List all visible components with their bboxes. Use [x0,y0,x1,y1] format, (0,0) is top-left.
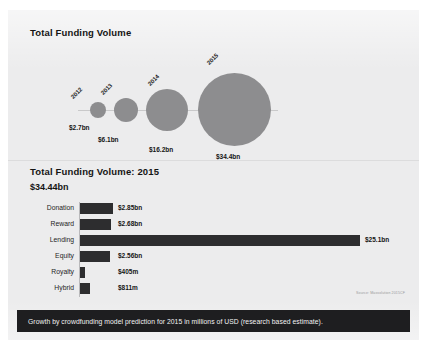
bubble-year-label-2012: 2012 [70,86,84,100]
bar-value-label: $405m [118,268,138,275]
bubble-year-label-2014: 2014 [147,73,161,87]
bar-chart-section: Total Funding Volume: 2015 $34.44bn Dona… [8,161,419,301]
bar-rect-equity [80,251,110,262]
bubble-year-label-2015: 2015 [206,52,220,66]
table-row: Lending $25.1bn [8,234,419,248]
bar-category-label: Equity [55,252,74,259]
bubble-2015 [198,73,271,146]
page-title: Total Funding Volume [30,27,131,38]
bubble-value-label-2012: $2.7bn [69,124,90,131]
table-row: Donation $2.85bn [8,202,419,216]
bar-category-label: Lending [50,236,74,243]
bubble-2012 [90,102,106,118]
table-row: Royalty $405m [8,266,419,280]
bar-category-label: Donation [47,204,74,211]
table-row: Equity $2.56bn [8,250,419,264]
bar-category-label: Hybrid [54,284,74,291]
bar-rect-royalty [80,267,85,278]
footer-caption-text: Growth by crowdfunding model prediction … [28,318,323,325]
subsection-title: Total Funding Volume: 2015 [30,166,159,177]
subsection-total: $34.44bn [30,182,69,192]
bubble-2014 [146,89,188,131]
footer-caption-bar: Growth by crowdfunding model prediction … [17,310,410,332]
infographic-screenshot: Total Funding Volume 2012 $2.7bn 2013 $6… [0,0,427,349]
bar-category-label: Reward [51,220,74,227]
bar-rect-donation [80,203,113,214]
bubble-value-label-2015: $34.4bn [216,153,240,160]
bar-category-label: Royalty [51,268,74,275]
bubble-value-label-2014: $16.2bn [149,146,173,153]
bar-value-label: $2.85bn [118,204,142,211]
bubble-2013 [114,98,138,122]
bubble-chart-section: Total Funding Volume 2012 $2.7bn 2013 $6… [8,10,419,160]
bar-value-label: $25.1bn [365,236,389,243]
bars-area: Donation $2.85bn Reward $2.68bn Lending … [8,202,419,297]
source-attribution: Source: Massolution 2015CF [356,291,405,295]
bar-value-label: $2.56bn [118,252,142,259]
bar-rect-reward [80,219,111,230]
bar-value-label: $811m [118,284,138,291]
bar-value-label: $2.68bn [118,220,142,227]
bar-rect-lending [80,235,360,246]
bubble-value-label-2013: $6.1bn [98,136,119,143]
bar-rect-hybrid [80,283,90,294]
table-row: Reward $2.68bn [8,218,419,232]
bubble-year-label-2013: 2013 [100,82,114,96]
